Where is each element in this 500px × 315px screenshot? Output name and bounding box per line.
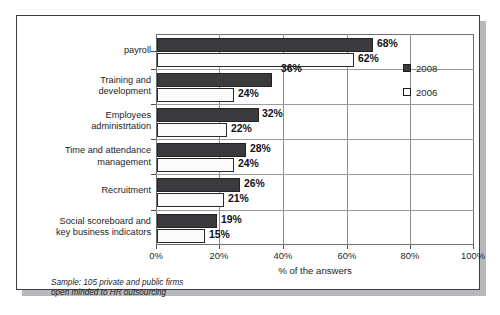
bar-group-recruitment: Recruitment 26% 21%	[17, 174, 500, 209]
bar-value-2006-payroll: 62%	[358, 52, 379, 66]
bar-2006-training	[157, 88, 234, 102]
filled-square-icon	[403, 64, 411, 72]
category-tick-2	[151, 104, 156, 105]
bar-2008-employees-administration	[157, 108, 259, 122]
bar-2008-social-scoreboard	[157, 214, 217, 228]
legend-item-2006: 2006	[403, 84, 467, 100]
legend-label-2006: 2006	[416, 87, 437, 98]
category-label-0: payroll	[0, 45, 151, 56]
x-axis-title: % of the answers	[156, 265, 474, 276]
category-label-3: Time and attendance management	[0, 145, 151, 167]
axis-tick-0	[156, 245, 157, 249]
row-separator-3	[156, 139, 474, 140]
bar-2006-employees-administration	[157, 123, 227, 137]
category-tick-1	[151, 69, 156, 70]
chart-footnote: Sample: 105 private and public firms ope…	[51, 278, 183, 299]
bar-value-2006-training: 24%	[238, 87, 259, 101]
bar-value-2008-time-attendance: 28%	[250, 142, 271, 156]
axis-label-40: 40%	[274, 250, 293, 261]
axis-tick-60	[347, 245, 348, 249]
axis-label-20: 20%	[210, 250, 229, 261]
axis-label-80: 80%	[401, 250, 420, 261]
axis-label-100: 100%	[461, 250, 485, 261]
category-label-5: Social scoreboard and key business indic…	[0, 216, 151, 238]
category-tick-3	[151, 139, 156, 140]
bar-value-2008-recruitment: 26%	[244, 177, 265, 191]
bar-value-2008-payroll: 68%	[377, 37, 398, 51]
category-tick-5	[151, 210, 156, 211]
legend-label-2008: 2008	[416, 63, 437, 74]
row-separator-4	[156, 174, 474, 175]
category-label-4: Recruitment	[0, 185, 151, 196]
bar-group-social-scoreboard: Social scoreboard and key business indic…	[17, 210, 500, 245]
axis-label-0: 0%	[149, 250, 163, 261]
axis-tick-80	[410, 245, 411, 249]
bar-group-employees-administration: Employees administrtation 32% 22%	[17, 104, 500, 139]
axis-tick-40	[283, 245, 284, 249]
chart-card: payroll 68% 62% Training and development…	[16, 15, 480, 290]
category-tick-0	[151, 51, 156, 52]
bar-2006-social-scoreboard	[157, 229, 205, 243]
bar-value-2008-social-scoreboard: 19%	[221, 213, 242, 227]
bar-value-2006-time-attendance: 24%	[238, 157, 259, 171]
chart-screenshot: payroll 68% 62% Training and development…	[0, 0, 500, 315]
bar-group-time-attendance: Time and attendance management 28% 24%	[17, 139, 500, 174]
bar-value-2006-social-scoreboard: 15%	[209, 228, 230, 242]
chart-legend: 2008 2006	[403, 60, 467, 108]
bar-value-2008-employees-administration: 32%	[262, 107, 283, 121]
legend-item-2008: 2008	[403, 60, 467, 76]
bar-2008-recruitment	[157, 178, 240, 192]
axis-label-60: 60%	[338, 250, 357, 261]
bar-value-2006-recruitment: 21%	[228, 192, 249, 206]
row-separator-5	[156, 210, 474, 211]
bar-value-2006-employees-administration: 22%	[231, 122, 252, 136]
bar-2006-time-attendance	[157, 158, 234, 172]
bar-2006-payroll	[157, 53, 354, 67]
empty-square-icon	[403, 88, 411, 96]
bar-2008-training	[157, 73, 272, 87]
category-tick-4	[151, 174, 156, 175]
category-label-1: Training and development	[0, 75, 151, 97]
axis-tick-20	[219, 245, 220, 249]
axis-tick-100	[473, 245, 474, 249]
bar-2006-recruitment	[157, 193, 224, 207]
bar-2008-payroll	[157, 38, 373, 52]
category-label-2: Employees administrtation	[0, 110, 151, 132]
bar-value-2008-training: 36%	[281, 62, 302, 76]
bar-2008-time-attendance	[157, 143, 246, 157]
